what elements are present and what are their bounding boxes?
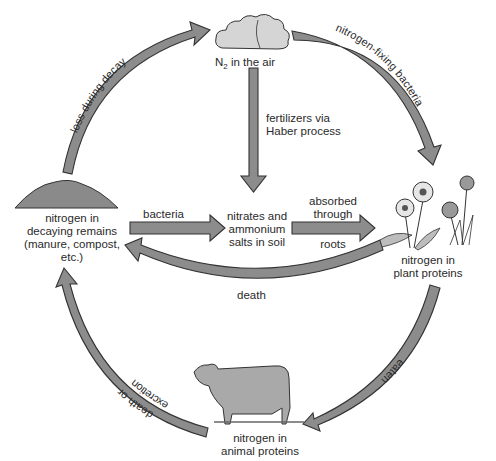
svg-text:nitrogen-fixing bacteria: nitrogen-fixing bacteria [334,21,426,109]
arrow-loss-during-decay: loss during decay [63,22,210,174]
label-decaying-remains: nitrogen in decaying remains (manure, co… [8,212,136,264]
compost-pile-icon [15,180,118,208]
arrow-nitrogen-fixing: nitrogen-fixing bacteria [292,21,441,165]
label-loss-during-decay: loss during decay [68,55,129,134]
label-death: death [237,289,266,302]
arrow-eaten: eaten [303,285,440,431]
flowers-icon [380,176,474,250]
label-plant-proteins: nitrogen in plant proteins [372,254,484,280]
label-nitrates-soil: nitrates and ammonium salts in soil [222,210,292,249]
arrow-death-or-excretion: death or excretion [56,268,208,437]
cow-icon [194,364,304,424]
label-absorbed-through: absorbed through [302,195,364,221]
cloud-icon [216,14,290,49]
label-n2-in-air: N2 in the air [215,56,275,73]
label-bacteria: bacteria [143,208,184,221]
label-nitrogen-fixing-bacteria: nitrogen-fixing bacteria [334,21,426,109]
label-fertilizers: fertilizers via Haber process [266,112,341,138]
svg-text:loss during decay: loss during decay [68,55,129,134]
arrow-fertilizers [241,68,266,192]
label-animal-proteins: nitrogen in animal proteins [210,432,310,458]
label-roots: roots [302,238,364,251]
